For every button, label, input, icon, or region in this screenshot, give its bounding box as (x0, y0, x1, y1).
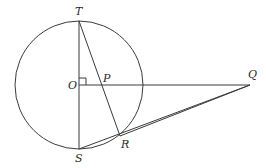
label-p: P (102, 72, 111, 85)
label-r: R (120, 138, 129, 151)
label-s: S (75, 152, 83, 165)
label-q: Q (248, 68, 257, 81)
right-angle-marker-icon (79, 78, 86, 85)
segment-rq (120, 85, 250, 136)
geometry-diagram: T O P Q R S (0, 0, 266, 168)
label-t: T (75, 5, 84, 18)
label-o: O (68, 79, 77, 92)
